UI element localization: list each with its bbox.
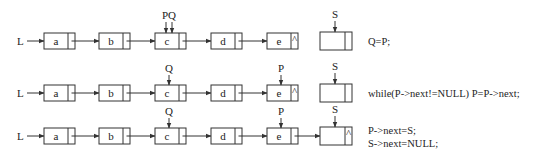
node-box [155,128,186,144]
node-value: b [108,35,114,47]
node-value: b [108,87,114,99]
node-box [211,33,242,49]
s-pointer-label: S [332,8,338,20]
null-symbol: ^ [346,127,352,139]
head-label: L [17,87,24,99]
pointer-label: Q [165,105,173,117]
code-line: S->next=NULL; [368,138,438,149]
s-node-box [320,32,352,50]
code-line: Q=P; [368,36,390,47]
s-pointer-label: S [332,103,338,115]
node-value: d [220,87,226,99]
node-value: a [54,130,59,142]
pointer-label: PQ [162,9,176,21]
node-value: c [165,130,170,142]
node-value: a [54,35,59,47]
code-line: while(P->next!=NULL) P=P->next; [368,88,520,100]
s-pointer-label: S [332,60,338,72]
node-value: e [277,130,282,142]
node-box [155,85,186,101]
node-box [99,128,130,144]
node-box [267,128,298,144]
head-label: L [17,130,24,142]
node-value: d [220,35,226,47]
null-symbol: ^ [292,33,298,45]
pointer-label: Q [165,62,173,74]
node-box [155,33,186,49]
s-node-box [320,84,352,102]
head-label: L [17,35,24,47]
code-line: P->next=S; [368,125,416,136]
node-box [44,33,75,49]
node-value: e [277,87,282,99]
node-value: e [277,35,282,47]
node-box [44,128,75,144]
node-box [211,85,242,101]
node-value: a [54,87,59,99]
node-box [99,85,130,101]
node-box [211,128,242,144]
pointer-label: P [278,62,284,74]
node-value: c [165,35,170,47]
node-box [99,33,130,49]
pointer-label: P [278,105,284,117]
null-symbol: ^ [292,85,298,97]
node-value: b [108,130,114,142]
node-box [44,85,75,101]
node-value: c [165,87,170,99]
node-value: d [220,130,226,142]
linked-list-diagram: Labcde^SPQQ=P;Labcde^SQPwhile(P->next!=N… [0,0,536,158]
